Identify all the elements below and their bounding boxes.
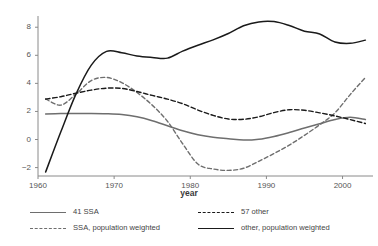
y-tick-label: 6 [13,50,31,59]
chart-legend: 41 SSA 57 other SSA, population weighted… [30,206,360,238]
y-tick-label: 8 [13,22,31,31]
legend-swatch-dashed-black [198,212,234,213]
legend-item-57-other: 57 other [198,206,269,218]
y-tick-label: 2 [13,106,31,115]
chart-figure: −202468 19601970198019902000 year 41 SSA… [0,0,378,246]
legend-label: SSA, population weighted [73,222,160,234]
legend-label: other, population weighted [241,222,330,234]
legend-swatch-solid-gray [30,212,66,213]
legend-item-41-ssa: 41 SSA [30,206,99,218]
legend-swatch-solid-black [198,228,234,229]
y-tick-label: 0 [13,135,31,144]
legend-item-other-population-weighted: other, population weighted [198,222,330,234]
legend-label: 41 SSA [73,206,99,218]
legend-swatch-dashed-gray [30,228,66,229]
y-tick-label: −2 [13,163,31,172]
y-tick-label: 4 [13,78,31,87]
axis-lines [38,16,373,176]
x-axis-title: year [0,188,378,198]
data-series-group [46,21,366,172]
series-line-57-other [46,88,366,124]
legend-item-ssa-population-weighted: SSA, population weighted [30,222,160,234]
legend-label: 57 other [241,206,269,218]
series-line-other-population-weighted [46,21,366,172]
